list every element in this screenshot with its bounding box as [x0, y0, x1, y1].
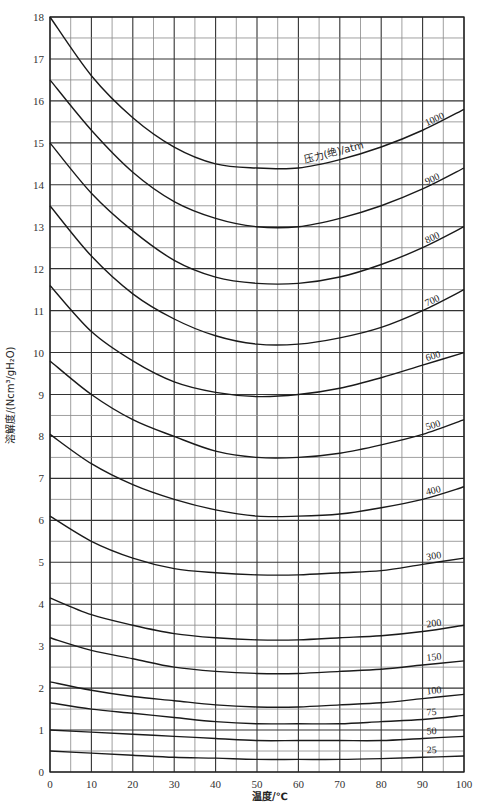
x-tick-label: 10	[86, 778, 98, 790]
curve-label: 300	[425, 549, 441, 562]
curve-label: 500	[424, 417, 442, 432]
x-tick-label: 40	[210, 778, 222, 790]
y-tick-label: 2	[39, 682, 45, 694]
solubility-chart: 0102030405060708090100 01234567891011121…	[0, 0, 479, 810]
y-tick-label: 7	[39, 472, 45, 484]
x-tick-label: 100	[456, 778, 473, 790]
y-tick-label: 10	[33, 347, 45, 359]
x-tick-label: 30	[169, 778, 181, 790]
y-tick-label: 4	[39, 598, 45, 610]
y-axis-label: 溶解度/(Ncm³/gH₂O)	[4, 346, 16, 443]
x-tick-label: 70	[334, 778, 346, 790]
y-tick-label: 9	[39, 389, 45, 401]
y-tick-label: 11	[33, 305, 44, 317]
x-tick-label: 60	[293, 778, 305, 790]
x-axis-label: 温度/℃	[252, 790, 288, 802]
x-tick-label: 20	[127, 778, 139, 790]
y-tick-label: 18	[33, 11, 45, 23]
curve-label: 25	[426, 744, 436, 755]
curve-label: 700	[423, 292, 441, 308]
curve-label: 150	[426, 651, 442, 663]
x-tick-label: 50	[252, 778, 264, 790]
curve-label: 800	[423, 229, 441, 245]
curve-label: 75	[426, 706, 437, 718]
x-tick-label: 90	[417, 778, 429, 790]
y-tick-label: 1	[39, 724, 45, 736]
y-tick-label: 16	[33, 95, 45, 107]
y-tick-label: 3	[39, 640, 45, 652]
y-tick-label: 0	[39, 766, 45, 778]
y-tick-label: 15	[33, 137, 45, 149]
y-tick-label: 14	[33, 179, 45, 191]
y-tick-label: 12	[33, 263, 44, 275]
x-tick-label: 80	[376, 778, 388, 790]
curve-label: 50	[426, 725, 437, 736]
y-tick-label: 17	[33, 53, 45, 65]
grid	[50, 17, 464, 772]
curve-label: 100	[426, 684, 442, 696]
y-tick-label: 13	[33, 221, 45, 233]
curve-label: 200	[426, 617, 442, 630]
y-tick-label: 5	[39, 556, 45, 568]
y-axis-ticks: 0123456789101112131415161718	[33, 11, 45, 778]
y-tick-label: 8	[39, 430, 45, 442]
x-tick-label: 0	[47, 778, 53, 790]
y-tick-label: 6	[39, 514, 45, 526]
x-axis-ticks: 0102030405060708090100	[47, 778, 473, 790]
